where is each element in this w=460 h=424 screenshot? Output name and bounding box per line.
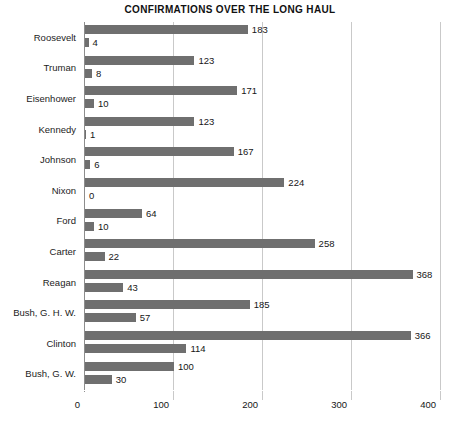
chart-title: CONFIRMATIONS OVER THE LONG HAUL bbox=[0, 3, 460, 16]
bar-value-label: 57 bbox=[140, 312, 151, 323]
category-label: Bush, G. W. bbox=[0, 359, 76, 390]
category-label: Reagan bbox=[0, 267, 76, 298]
bar-group: Ford6410 bbox=[0, 206, 460, 237]
bar-value-label: 100 bbox=[178, 361, 194, 372]
bar-value-label: 10 bbox=[98, 98, 109, 109]
bar-rect bbox=[85, 344, 186, 353]
x-tick-400: 400 bbox=[400, 399, 436, 410]
bar-value-label: 366 bbox=[415, 330, 431, 341]
x-tick-100: 100 bbox=[133, 399, 169, 410]
bar-rect bbox=[85, 331, 411, 340]
bar-value-label: 123 bbox=[198, 116, 214, 127]
x-axis-line bbox=[84, 390, 441, 391]
bar-value-label: 224 bbox=[288, 177, 304, 188]
bar-group: Bush, G. H. W.18557 bbox=[0, 297, 460, 328]
bar-value-label: 64 bbox=[146, 208, 157, 219]
bar-value-label: 258 bbox=[319, 238, 335, 249]
bar-rect bbox=[85, 239, 315, 248]
bar-value-label: 167 bbox=[238, 146, 254, 157]
x-tick-200: 200 bbox=[222, 399, 258, 410]
category-label: Ford bbox=[0, 206, 76, 237]
bar-group-bars: 2240 bbox=[85, 175, 460, 206]
bar-value-label: 10 bbox=[98, 221, 109, 232]
bar-value-label: 171 bbox=[241, 85, 257, 96]
bar-group: Clinton366114 bbox=[0, 328, 460, 359]
x-tick-0: 0 bbox=[44, 399, 80, 410]
bar-value-label: 368 bbox=[417, 269, 433, 280]
category-label: Bush, G. H. W. bbox=[0, 297, 76, 328]
bar-group-bars: 17110 bbox=[85, 83, 460, 114]
bar-value-label: 185 bbox=[254, 299, 270, 310]
bar-rect bbox=[85, 252, 105, 261]
bar-value-label: 22 bbox=[109, 251, 120, 262]
bar-value-label: 30 bbox=[116, 374, 127, 385]
bar-group: Eisenhower17110 bbox=[0, 83, 460, 114]
category-label: Clinton bbox=[0, 328, 76, 359]
bar-group: Johnson1676 bbox=[0, 144, 460, 175]
bar-rect bbox=[85, 160, 90, 169]
bar-rect bbox=[85, 99, 94, 108]
category-label: Eisenhower bbox=[0, 83, 76, 114]
bar-group-bars: 36843 bbox=[85, 267, 460, 298]
bar-rect bbox=[85, 283, 123, 292]
bar-rect bbox=[85, 362, 174, 371]
bar-rect bbox=[85, 117, 194, 126]
bar-group: Kennedy1231 bbox=[0, 114, 460, 145]
category-label: Carter bbox=[0, 236, 76, 267]
bar-group-bars: 1676 bbox=[85, 144, 460, 175]
bar-value-label: 114 bbox=[190, 343, 205, 354]
bar-rect bbox=[85, 56, 194, 65]
bar-group: Carter25822 bbox=[0, 236, 460, 267]
bar-rect bbox=[85, 222, 94, 231]
bar-value-label: 183 bbox=[252, 24, 268, 35]
bar-group-bars: 18557 bbox=[85, 297, 460, 328]
bar-rect bbox=[85, 147, 234, 156]
bar-group-bars: 1834 bbox=[85, 22, 460, 53]
bar-group-bars: 366114 bbox=[85, 328, 460, 359]
bar-rect bbox=[85, 209, 142, 218]
x-tick-300: 300 bbox=[311, 399, 347, 410]
bar-value-label: 8 bbox=[96, 68, 101, 79]
bar-rect bbox=[85, 86, 237, 95]
bar-group-bars: 25822 bbox=[85, 236, 460, 267]
bar-rect bbox=[85, 178, 284, 187]
category-label: Roosevelt bbox=[0, 22, 76, 53]
bar-group: Bush, G. W.10030 bbox=[0, 359, 460, 390]
bar-rect bbox=[85, 300, 250, 309]
bar-group: Roosevelt1834 bbox=[0, 22, 460, 53]
bar-rect bbox=[85, 69, 92, 78]
bar-value-label: 43 bbox=[127, 282, 138, 293]
bar-group: Nixon2240 bbox=[0, 175, 460, 206]
bar-value-label: 123 bbox=[198, 55, 214, 66]
bar-chart: CONFIRMATIONS OVER THE LONG HAUL Rooseve… bbox=[0, 0, 460, 424]
bar-rect bbox=[85, 313, 136, 322]
x-axis: 0100200300400 bbox=[0, 390, 460, 424]
bar-value-label: 0 bbox=[89, 190, 94, 201]
category-rows: Roosevelt1834Truman1238Eisenhower17110Ke… bbox=[0, 22, 460, 390]
bar-group: Truman1238 bbox=[0, 53, 460, 84]
bar-group-bars: 6410 bbox=[85, 206, 460, 237]
bar-rect bbox=[85, 270, 413, 279]
bar-value-label: 6 bbox=[94, 159, 99, 170]
bar-rect bbox=[85, 130, 86, 139]
bar-value-label: 4 bbox=[93, 37, 98, 48]
category-label: Johnson bbox=[0, 144, 76, 175]
bar-group: Reagan36843 bbox=[0, 267, 460, 298]
bar-value-label: 1 bbox=[90, 129, 95, 140]
bar-group-bars: 10030 bbox=[85, 359, 460, 390]
bar-rect bbox=[85, 25, 248, 34]
bar-rect bbox=[85, 375, 112, 384]
bar-rect bbox=[85, 38, 89, 47]
category-label: Nixon bbox=[0, 175, 76, 206]
category-label: Truman bbox=[0, 53, 76, 84]
bar-group-bars: 1231 bbox=[85, 114, 460, 145]
bar-group-bars: 1238 bbox=[85, 53, 460, 84]
category-label: Kennedy bbox=[0, 114, 76, 145]
